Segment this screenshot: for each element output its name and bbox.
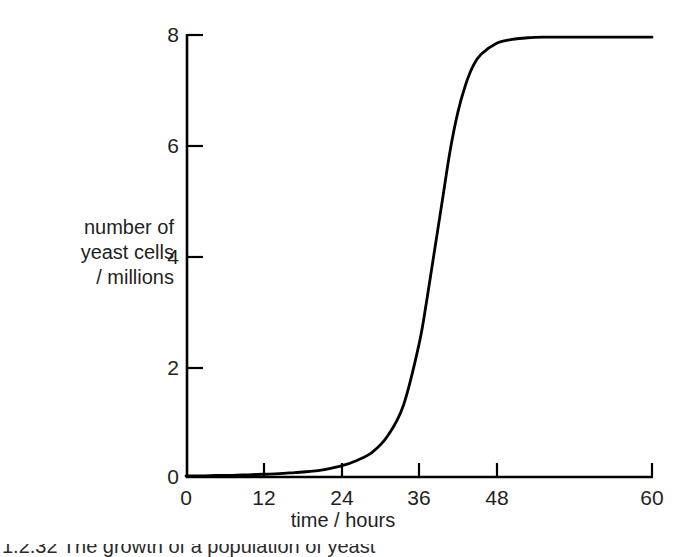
xtick-label-60: 60 xyxy=(629,487,675,508)
growth-curve-line xyxy=(186,37,652,476)
ytick-label-6: 6 xyxy=(149,135,179,156)
xtick-label-0: 0 xyxy=(163,487,209,508)
xtick-label-24: 24 xyxy=(319,487,365,508)
ytick-label-8: 8 xyxy=(149,24,179,45)
xtick-label-48: 48 xyxy=(474,487,520,508)
x-axis-title: time / hours xyxy=(0,508,686,533)
xtick-label-36: 36 xyxy=(396,487,442,508)
xtick-label-12: 12 xyxy=(241,487,287,508)
ytick-label-0: 0 xyxy=(149,466,179,487)
y-axis-title-line-1: number of xyxy=(34,215,174,240)
y-axis-title-line-2: yeast cells xyxy=(34,240,174,265)
y-axis-title: number of yeast cells / millions xyxy=(34,215,174,290)
figure-caption-text: 1.2.32 The growth of a population of yea… xyxy=(2,544,375,557)
y-axis-ticks xyxy=(187,35,203,368)
figure-caption-cropped: 1.2.32 The growth of a population of yea… xyxy=(0,544,686,557)
y-axis-title-line-3: / millions xyxy=(34,265,174,290)
ytick-label-2: 2 xyxy=(149,357,179,378)
yeast-growth-figure: 8 6 4 2 0 0 12 24 36 48 60 number of yea… xyxy=(0,0,686,557)
